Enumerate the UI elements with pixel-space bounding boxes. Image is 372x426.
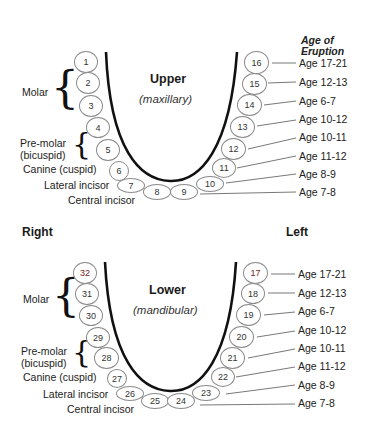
tooth-20[interactable]: 20 [229, 326, 254, 348]
tooth-22[interactable]: 22 [211, 367, 235, 387]
tooth-25[interactable]: 25 [141, 393, 169, 409]
tooth-24[interactable]: 24 [167, 393, 195, 409]
tooth-9[interactable]: 9 [170, 184, 198, 200]
lower-age-20: Age 10-12 [298, 324, 346, 336]
lower-age-21: Age 10-11 [298, 342, 346, 354]
lower-subtitle: (mandibular) [133, 304, 198, 316]
upper-molar-label: Molar [22, 86, 48, 98]
right-side-label: Right [22, 225, 53, 239]
tooth-30[interactable]: 30 [79, 305, 103, 326]
tooth-8[interactable]: 8 [143, 184, 171, 200]
lower-bicuspid-text: (bicuspid) [21, 357, 67, 369]
upper-lateral-incisor-label: Lateral incisor [44, 179, 109, 191]
upper-age-9: Age 7-8 [299, 186, 336, 198]
upper-age-13: Age 10-12 [299, 113, 347, 125]
tooth-26[interactable]: 26 [116, 386, 144, 401]
tooth-16[interactable]: 16 [244, 51, 269, 74]
tooth-5[interactable]: 5 [96, 139, 120, 161]
tooth-14[interactable]: 14 [237, 94, 262, 116]
upper-central-incisor-label: Central incisor [68, 194, 135, 206]
upper-age-11: Age 11-12 [299, 150, 347, 162]
lower-canine-label: Canine (cuspid) [23, 371, 97, 383]
tooth-13[interactable]: 13 [230, 116, 255, 138]
upper-age-14: Age 6-7 [299, 95, 336, 107]
upper-age-15: Age 12-13 [299, 76, 347, 88]
lower-age-22: Age 11-12 [298, 360, 346, 372]
upper-age-12: Age 10-11 [299, 131, 347, 143]
upper-age-16: Age 17-21 [299, 57, 347, 69]
age-of-eruption-line2: Eruption [301, 46, 344, 57]
tooth-7[interactable]: 7 [117, 178, 145, 193]
lower-premolar-label: Pre-molar (bicuspid) [21, 345, 67, 369]
lower-central-incisor-label: Central incisor [67, 403, 134, 415]
tooth-28[interactable]: 28 [94, 347, 119, 369]
upper-canine-label: Canine (cuspid) [23, 163, 97, 175]
lower-age-17: Age 17-21 [298, 268, 346, 280]
lower-molar-label: Molar [23, 293, 49, 305]
tooth-1[interactable]: 1 [74, 51, 98, 73]
upper-bicuspid-text: (bicuspid) [20, 149, 66, 161]
lower-age-24: Age 7-8 [298, 397, 335, 409]
upper-age-10: Age 8-9 [299, 168, 336, 180]
tooth-23[interactable]: 23 [192, 385, 220, 401]
tooth-2[interactable]: 2 [76, 72, 100, 94]
tooth-21[interactable]: 21 [220, 347, 245, 369]
left-side-label: Left [286, 225, 308, 239]
upper-premolar-text: Pre-molar [20, 137, 66, 149]
lower-age-23: Age 8-9 [298, 379, 335, 391]
lower-age-19: Age 6-7 [298, 305, 335, 317]
tooth-12[interactable]: 12 [221, 138, 246, 160]
tooth-11[interactable]: 11 [212, 158, 236, 178]
upper-title: Upper [150, 72, 186, 86]
tooth-32[interactable]: 32 [73, 262, 97, 284]
tooth-31[interactable]: 31 [75, 283, 99, 305]
tooth-17[interactable]: 17 [243, 262, 268, 284]
tooth-18[interactable]: 18 [241, 283, 265, 304]
tooth-3[interactable]: 3 [79, 95, 103, 117]
upper-subtitle: (maxillary) [139, 93, 192, 105]
tooth-19[interactable]: 19 [236, 304, 261, 326]
lower-premolar-text: Pre-molar [21, 345, 67, 357]
lower-age-18: Age 12-13 [298, 287, 346, 299]
tooth-15[interactable]: 15 [242, 73, 267, 95]
tooth-27[interactable]: 27 [107, 369, 127, 388]
upper-premolar-label: Pre-molar (bicuspid) [20, 137, 66, 161]
tooth-29[interactable]: 29 [86, 327, 110, 348]
tooth-4[interactable]: 4 [86, 117, 110, 138]
age-of-eruption-heading: Age of Eruption [301, 35, 344, 57]
upper-molar-brace-icon: { [51, 66, 79, 110]
lower-title: Lower [149, 283, 186, 297]
lower-lateral-incisor-label: Lateral incisor [43, 388, 108, 400]
tooth-10[interactable]: 10 [196, 176, 224, 192]
